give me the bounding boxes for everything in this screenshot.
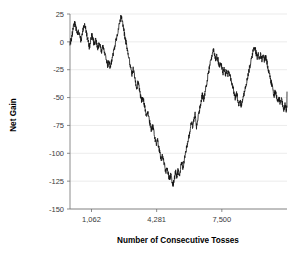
x-axis-title: Number of Consecutive Tosses (117, 236, 239, 245)
x-tick-label: 4,281 (147, 215, 166, 224)
y-tick-label: -150 (49, 205, 64, 214)
chart-figure: 250-25-50-75-100-125-150 1,0624,2817,500… (0, 0, 297, 257)
x-tick-label: 1,062 (82, 215, 101, 224)
net-gain-line-chart: 250-25-50-75-100-125-150 1,0624,2817,500… (0, 0, 297, 257)
y-tick-label: -25 (53, 65, 64, 74)
y-tick-label: 25 (56, 10, 64, 19)
y-tick-label: 0 (60, 38, 64, 47)
y-tick-label: -100 (49, 149, 64, 158)
y-axis-title: Net Gain (9, 98, 18, 132)
y-tick-label: -75 (53, 121, 64, 130)
y-tick-label: -125 (49, 177, 64, 186)
x-tick-label: 7,500 (212, 215, 231, 224)
y-tick-label: -50 (53, 93, 64, 102)
